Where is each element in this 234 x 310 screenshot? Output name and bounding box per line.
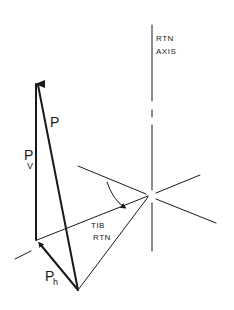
- rtn-axis-label-line1: RTN: [156, 34, 174, 43]
- rtn-axis-label-line2: AXIS: [156, 47, 176, 56]
- vector-p-label: P: [50, 114, 59, 130]
- tib-rtn-angle-arc: [107, 182, 124, 207]
- tib-rtn-angle-label-line1: TIB: [91, 221, 105, 230]
- vector-decomposition-diagram: RTN AXIS P P V P h TIB RTN: [0, 0, 234, 310]
- axis-upper-left: [78, 166, 146, 194]
- tib-rtn-angle-label-line2: RTN: [93, 233, 111, 242]
- axis-lower-left-dash: [15, 251, 31, 259]
- vector-pv-subscript: V: [27, 161, 33, 171]
- vector-ph-subscript: h: [53, 277, 58, 287]
- axis-lower-right: [156, 199, 216, 223]
- axis-upper-right: [156, 175, 200, 193]
- projection-line: [78, 197, 148, 290]
- horizontal-plane-axes: [15, 166, 216, 259]
